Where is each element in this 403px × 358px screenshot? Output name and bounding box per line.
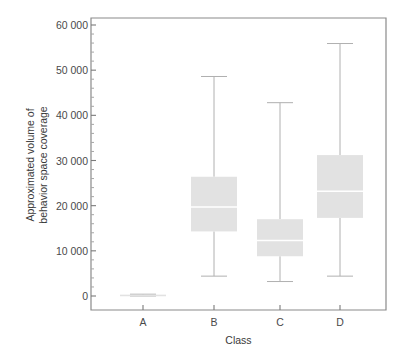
box-plot-b xyxy=(191,76,237,276)
x-axis-tick-label-c: C xyxy=(276,316,284,328)
plot-area xyxy=(0,0,403,358)
box-iqr xyxy=(120,295,166,297)
x-axis-tick-label-b: B xyxy=(210,316,217,328)
box-plot-c xyxy=(257,103,303,282)
box-iqr xyxy=(191,177,237,232)
x-axis-title: Class xyxy=(225,334,251,346)
box-iqr xyxy=(257,219,303,256)
x-axis-tick-label-d: D xyxy=(336,316,344,328)
x-axis-tick-label-a: A xyxy=(139,316,146,328)
box-plot-d xyxy=(317,44,363,277)
box-iqr xyxy=(317,155,363,218)
box-plot-chart: Approximated volume of behavior space co… xyxy=(0,0,403,358)
box-plot-a xyxy=(120,294,166,296)
